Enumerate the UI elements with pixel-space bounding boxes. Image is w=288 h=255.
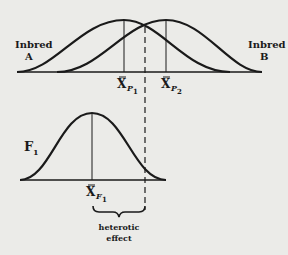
- effect-label: effect: [106, 233, 132, 243]
- inbred-a-letter: A: [24, 51, 33, 62]
- svg-text:1: 1: [33, 147, 39, 157]
- svg-text:X: X: [86, 185, 96, 199]
- f1-label: F 1: [24, 139, 39, 157]
- heterosis-diagram: Inbred A Inbred B X P 1 X P 2 F 1 X: [0, 0, 288, 255]
- mean-f1-label: X F 1: [86, 185, 107, 204]
- inbred-b-letter: B: [260, 51, 268, 62]
- heterotic-label: heterotic: [99, 222, 140, 232]
- svg-text:1: 1: [133, 87, 138, 96]
- svg-text:X: X: [161, 77, 171, 91]
- svg-text:2: 2: [177, 87, 182, 96]
- inbred-b-label: Inbred: [248, 39, 286, 50]
- mean-p2-label: X P 2: [161, 77, 182, 96]
- diagram-canvas: Inbred A Inbred B X P 1 X P 2 F 1 X: [0, 0, 288, 255]
- f1-curve: [20, 113, 166, 180]
- svg-text:X: X: [117, 77, 127, 91]
- heterotic-effect-brace: [93, 206, 145, 217]
- mean-p1-label: X P 1: [117, 77, 138, 96]
- svg-text:1: 1: [102, 195, 107, 204]
- inbred-a-label: Inbred: [15, 39, 53, 50]
- inbred-b-curve: [57, 20, 262, 72]
